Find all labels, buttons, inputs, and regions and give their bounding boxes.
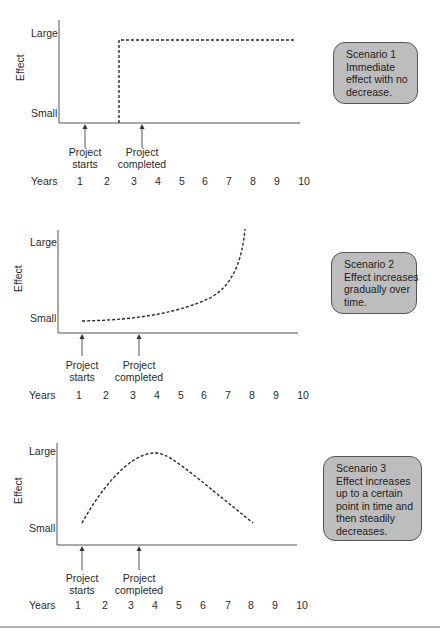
svg-text:3: 3 <box>130 389 136 401</box>
svg-text:7: 7 <box>226 175 232 187</box>
panel-scenario-3: Large Small Effect Project starts Projec… <box>12 443 308 611</box>
svg-text:4: 4 <box>154 389 160 401</box>
svg-text:1: 1 <box>76 389 82 401</box>
y-tick-small: Small <box>31 107 57 119</box>
svg-text:4: 4 <box>155 175 161 187</box>
svg-text:1: 1 <box>75 599 81 611</box>
marker-label-completed-line2: completed <box>115 584 164 596</box>
marker-label-completed-line1: Project <box>123 359 156 371</box>
svg-text:9: 9 <box>273 389 279 401</box>
svg-text:5: 5 <box>176 599 182 611</box>
marker-label-starts-line2: starts <box>69 584 95 596</box>
arrowhead-icon <box>137 546 142 551</box>
arrowhead-icon <box>137 334 142 339</box>
callout-line: Effect increases <box>344 271 408 284</box>
marker-label-completed-line1: Project <box>123 572 156 584</box>
svg-text:4: 4 <box>152 599 158 611</box>
callout-line: up to a certain <box>336 487 413 500</box>
svg-text:10: 10 <box>298 175 310 187</box>
callout-line: decreases. <box>336 525 413 538</box>
callout-line: Effect increases <box>336 475 413 488</box>
effect-curve-step <box>119 40 294 123</box>
svg-text:2: 2 <box>103 389 109 401</box>
y-axis-label: Effect <box>12 265 24 292</box>
callout-line: decrease. <box>346 86 409 99</box>
svg-text:3: 3 <box>131 175 137 187</box>
panel-scenario-1: Large Small Effect Project starts Projec… <box>14 20 310 187</box>
svg-text:6: 6 <box>201 389 207 401</box>
arrow-project-completed <box>137 546 142 570</box>
svg-text:9: 9 <box>272 599 278 611</box>
callout-line: Immediate <box>346 61 409 74</box>
arrowhead-icon <box>80 334 85 339</box>
callout-title: Scenario 2 <box>344 258 408 271</box>
arrowhead-icon <box>140 124 145 129</box>
svg-text:10: 10 <box>297 389 309 401</box>
arrowhead-icon <box>83 124 88 129</box>
callout-line: gradually over <box>344 283 408 296</box>
svg-text:8: 8 <box>250 175 256 187</box>
marker-label-starts-line1: Project <box>66 572 99 584</box>
svg-text:5: 5 <box>178 389 184 401</box>
svg-text:8: 8 <box>248 599 254 611</box>
svg-text:8: 8 <box>249 389 255 401</box>
y-axis-label: Effect <box>12 477 24 504</box>
svg-text:6: 6 <box>202 175 208 187</box>
callout-scenario-2: Scenario 2 Effect increases gradually ov… <box>331 252 417 314</box>
callout-line: effect with no <box>346 73 409 86</box>
callout-line: point in time and <box>336 500 413 513</box>
x-ticks: 1 2 3 4 5 6 7 8 9 10 <box>75 599 308 611</box>
marker-label-starts-line1: Project <box>66 359 99 371</box>
x-ticks: 1 2 3 4 5 6 7 8 9 10 <box>76 389 309 401</box>
svg-text:7: 7 <box>225 389 231 401</box>
effect-curve-peak-decline <box>82 453 253 523</box>
arrow-project-starts <box>80 334 85 356</box>
marker-label-completed-line2: completed <box>118 158 167 170</box>
svg-text:2: 2 <box>104 175 110 187</box>
x-axis-title: Years <box>31 175 57 187</box>
y-tick-large: Large <box>31 27 58 39</box>
marker-label-completed-line2: completed <box>115 371 164 383</box>
callout-title: Scenario 1 <box>346 48 409 61</box>
effect-curve-gradual <box>82 229 245 321</box>
marker-label-starts-line2: starts <box>72 158 98 170</box>
callout-line: then steadily <box>336 512 413 525</box>
svg-text:5: 5 <box>179 175 185 187</box>
arrow-project-completed <box>137 334 142 356</box>
callout-title: Scenario 3 <box>336 462 413 475</box>
svg-text:10: 10 <box>296 599 308 611</box>
svg-text:2: 2 <box>102 599 108 611</box>
y-tick-small: Small <box>30 312 56 324</box>
y-tick-large: Large <box>29 445 56 457</box>
x-axis-title: Years <box>29 599 55 611</box>
x-axis-title: Years <box>29 389 55 401</box>
y-tick-small: Small <box>29 522 55 534</box>
callout-scenario-1: Scenario 1 Immediate effect with no decr… <box>333 42 418 104</box>
panel-scenario-2: Large Small Effect Project starts Projec… <box>12 229 309 401</box>
marker-label-completed-line1: Project <box>126 146 159 158</box>
svg-text:9: 9 <box>274 175 280 187</box>
arrow-project-completed <box>140 124 145 148</box>
callout-scenario-3: Scenario 3 Effect increases up to a cert… <box>323 456 422 541</box>
marker-label-starts-line2: starts <box>69 371 95 383</box>
callout-line: time. <box>344 296 408 309</box>
arrowhead-icon <box>80 546 85 551</box>
marker-label-starts-line1: Project <box>69 146 102 158</box>
x-ticks: 1 2 3 4 5 6 7 8 9 10 <box>77 175 310 187</box>
svg-text:3: 3 <box>128 599 134 611</box>
svg-text:6: 6 <box>200 599 206 611</box>
y-axis-label: Effect <box>14 54 26 81</box>
svg-text:1: 1 <box>77 175 83 187</box>
arrow-project-starts <box>83 124 88 148</box>
arrow-project-starts <box>80 546 85 570</box>
svg-text:7: 7 <box>225 599 231 611</box>
y-tick-large: Large <box>30 236 57 248</box>
